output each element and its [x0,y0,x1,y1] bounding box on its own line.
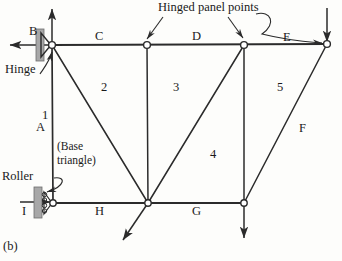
member-diagonal-H-D [148,45,244,203]
load-arrow-diagonal-H [123,203,148,240]
panel-number-1: 1 [42,109,48,123]
roller-support-label: Roller [2,170,33,184]
panel-number-5: 5 [277,81,283,95]
member-label-D: D [192,30,201,44]
panel-number-4: 4 [210,148,216,162]
joint-pin-B [49,42,56,49]
base-triangle-note-line2: triangle) [57,154,96,168]
figure-label: (b) [3,240,18,254]
member-label-B: B [29,25,37,39]
hinged-points-leader-mid [228,17,243,38]
member-diagonal-G-E [244,44,327,203]
joint-pin-E [324,41,331,48]
panel-number-2: 2 [101,81,107,95]
joint-pins [49,41,331,207]
hinge-support-label: Hinge [5,63,36,77]
roller-wall-plate [34,187,42,218]
member-diagonal-B-H [52,45,148,203]
member-vertical-C-H [147,45,148,203]
hinged-points-leader-left [147,17,163,39]
truss-figure: Hinged panel points Hinge Roller B C D E… [0,0,342,261]
joint-pin-H [145,200,151,206]
roller-leader-curve [47,178,62,192]
joint-pin-D [241,42,248,49]
member-label-C: C [95,30,103,44]
joint-pin-C [144,42,151,49]
member-label-G: G [192,205,201,219]
member-label-E: E [283,31,291,45]
joint-pin-I [50,200,56,206]
member-label-F: F [299,122,306,136]
load-arrows [10,8,327,240]
member-label-H: H [95,205,104,219]
joint-pin-G [241,200,247,206]
member-label-I: I [22,205,26,219]
base-triangle-note-line1: (Base [57,140,83,154]
member-label-A: A [36,121,45,135]
hinged-panel-points-label: Hinged panel points [158,1,259,15]
truss-members [52,44,327,203]
panel-number-3: 3 [173,81,179,95]
member-A-left-vertical [52,45,53,203]
